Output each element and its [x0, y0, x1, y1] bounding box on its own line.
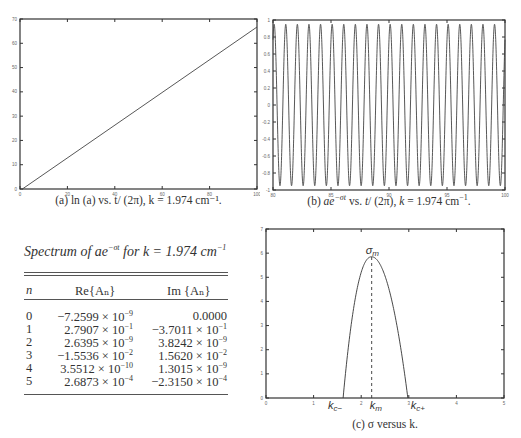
y-tick-label: 0.4 [264, 69, 271, 74]
y-tick-label: 40 [12, 89, 18, 94]
y-tick-label: 70 [12, 17, 18, 22]
plot-frame [20, 19, 257, 189]
x-tick-label: 4 [455, 401, 458, 406]
y-tick-label: 0 [14, 187, 17, 192]
y-tick-label: 3 [260, 323, 263, 328]
table-title-text-2: for k = 1.974 cm [120, 244, 217, 259]
y-tick-label: 0.2 [264, 86, 271, 91]
caption-c: (c) σ versus k. [266, 418, 504, 430]
km-label: km [370, 399, 383, 413]
y-tick-label: -0.2 [262, 120, 270, 125]
x-tick-label: 0 [265, 401, 268, 406]
caption-a: (a) ln (a) vs. t/ (2π), k = 1.974 cm⁻¹. [20, 193, 257, 207]
table-cell-re: 2.6873 × 10−4 [64, 374, 133, 390]
table-header-re: Re{Aₙ} [75, 283, 115, 299]
y-tick-label: 4 [260, 299, 263, 304]
y-tick-label: -0.6 [262, 154, 270, 159]
sigma-curve [343, 257, 408, 398]
y-tick-label: 0.8 [264, 35, 271, 40]
series-line [273, 24, 505, 186]
y-tick-label: -0.4 [262, 137, 270, 142]
caption-b: (b) ae−σt vs. t/ (2π), k = 1.974 cm−1. [273, 193, 505, 207]
y-tick-label: 0 [260, 396, 263, 401]
table-top-rule [24, 272, 228, 273]
y-tick-label: 50 [12, 65, 18, 70]
table-bottom-rule [24, 394, 228, 395]
y-tick-label: 10 [12, 162, 18, 167]
table-title-sup-2: −1 [217, 243, 226, 252]
y-tick-label: 1 [267, 18, 270, 23]
y-tick-label: 7 [260, 227, 263, 232]
x-tick-label: 5 [503, 401, 506, 406]
series-line [22, 27, 257, 189]
y-tick-label: 5 [260, 275, 263, 280]
chart-c-sigma-vs-k: 01234501234567σmkc−kmkc+ [255, 215, 521, 438]
table-title: Spectrum of ae−σt for k = 1.974 cm−1 [24, 243, 226, 260]
y-tick-label: 20 [12, 138, 18, 143]
y-tick-label: 0 [267, 103, 270, 108]
y-tick-label: -0.8 [262, 171, 270, 176]
table-header-rule [24, 299, 228, 300]
table-header-n: n [26, 283, 32, 298]
y-tick-label: -1 [266, 188, 270, 193]
chart-a-ln-a: 020406080100010203040506070 [0, 0, 260, 200]
y-tick-label: 60 [12, 41, 18, 46]
kc-plus-label: kc+ [411, 399, 426, 413]
table-title-text: Spectrum of ae [24, 244, 108, 259]
plot-frame [266, 229, 504, 398]
sigma-m-label: σm [366, 244, 380, 258]
y-tick-label: 0.6 [264, 52, 271, 57]
y-tick-label: 1 [260, 371, 263, 376]
y-tick-label: 2 [260, 347, 263, 352]
table-title-sup: −σt [108, 243, 120, 252]
x-tick-label: 2 [360, 401, 363, 406]
caption-b-text: (b) ae−σt vs. t/ (2π), k = 1.974 cm−1. [307, 195, 470, 207]
chart-b-oscillation: 80859095100-1-0.8-0.6-0.4-0.200.20.40.60… [260, 0, 521, 200]
x-tick-label: 1 [312, 401, 315, 406]
table-cell-n: 5 [26, 374, 32, 389]
table-header-im: Im {Aₙ} [167, 283, 210, 299]
y-tick-label: 30 [12, 114, 18, 119]
kc-minus-label: kc− [328, 399, 343, 413]
table-top-rule-2 [24, 275, 228, 276]
table-cell-im: −2.3150 × 10−4 [151, 374, 227, 390]
y-tick-label: 6 [260, 251, 263, 256]
